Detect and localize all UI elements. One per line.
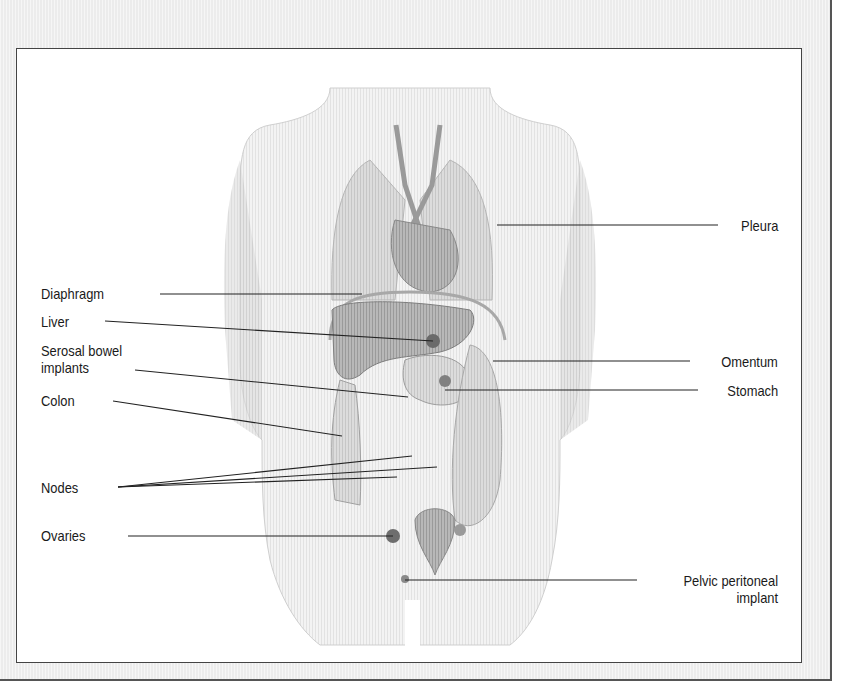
label-stomach: Stomach — [727, 382, 778, 399]
label-diaphragm: Diaphragm — [41, 285, 104, 302]
ovary-right — [454, 524, 466, 536]
label-serosal-bowel-implants: Serosal bowel implants — [41, 342, 122, 376]
label-liver: Liver — [41, 313, 69, 330]
stomach-lesion — [439, 375, 451, 387]
label-nodes: Nodes — [41, 479, 78, 496]
colon — [332, 380, 361, 505]
label-omentum: Omentum — [721, 353, 778, 370]
label-pelvic-peritoneal-implant: Pelvic peritoneal implant — [683, 572, 778, 606]
label-colon: Colon — [41, 392, 75, 409]
label-pleura: Pleura — [741, 217, 778, 234]
pelvic-implant — [401, 575, 409, 583]
label-ovaries: Ovaries — [41, 527, 85, 544]
